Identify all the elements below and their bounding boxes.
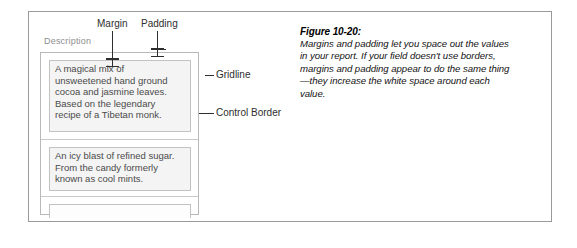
annotation-label-padding: Padding xyxy=(141,18,178,29)
leader-line-gridline xyxy=(205,75,214,76)
measure-ibeam-padding-icon xyxy=(151,48,164,57)
gridline-row-separator-1 xyxy=(41,139,198,140)
screenshot-region: Description A magical mix of unsweetened… xyxy=(0,0,290,248)
annotation-label-control-border: Control Border xyxy=(216,107,281,118)
gridline-row-separator-2 xyxy=(41,196,198,197)
table-row[interactable]: A magical mix of unsweetened hand ground… xyxy=(49,60,191,132)
leader-line-margin xyxy=(112,31,113,59)
table-row[interactable] xyxy=(49,204,191,218)
figure-caption-body: Margins and padding let you space out th… xyxy=(300,38,515,100)
column-header-description: Description xyxy=(44,36,91,46)
annotation-label-margin: Margin xyxy=(97,18,128,29)
control-container: A magical mix of unsweetened hand ground… xyxy=(40,52,199,215)
table-row[interactable]: An icy blast of refined sugar. From the … xyxy=(49,147,191,191)
leader-line-padding xyxy=(157,31,158,49)
leader-line-control-border xyxy=(199,113,214,114)
figure-caption: Figure 10-20: Margins and padding let yo… xyxy=(300,26,515,100)
measure-ibeam-margin-icon xyxy=(106,58,119,67)
figure-caption-title: Figure 10-20: xyxy=(300,26,515,37)
annotation-label-gridline: Gridline xyxy=(216,69,250,80)
